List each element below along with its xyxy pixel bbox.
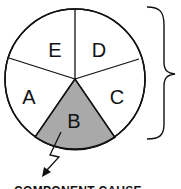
arrowhead-icon (42, 167, 51, 177)
segment-label-e: E (48, 39, 61, 61)
segment-label-b: B (67, 110, 80, 132)
segment-label-d: D (92, 39, 106, 61)
causal-pie-diagram: E D A C B COMPONENT CAUSE (0, 0, 181, 189)
segment-label-a: A (22, 86, 36, 108)
caption-component-cause: COMPONENT CAUSE (14, 184, 142, 189)
segment-label-c: C (110, 86, 124, 108)
curly-brace-icon (147, 7, 175, 139)
